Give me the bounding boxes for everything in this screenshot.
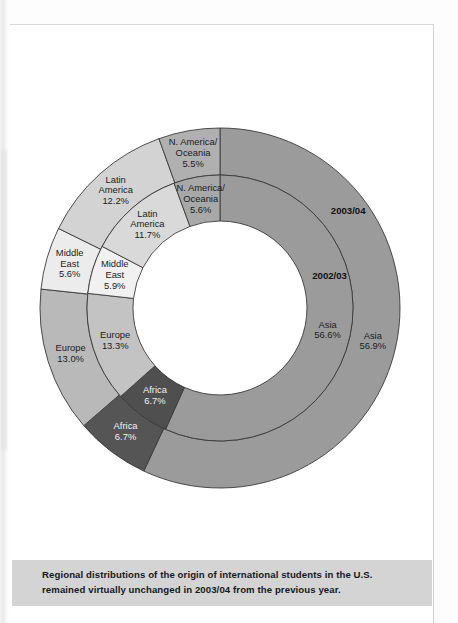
ring-inner-2002-03: [87, 175, 353, 441]
inner-year-label: 2002/03: [312, 270, 347, 281]
scanned-page: Asia56.9%Africa6.7%Europe13.0%MiddleEast…: [0, 0, 458, 623]
caption-line-2: virtually unchanged in 2003/04 from the …: [88, 584, 341, 595]
segment-label: Europe13.3%: [100, 329, 130, 351]
segment-label: Europe13.0%: [56, 343, 86, 365]
scan-gutter-band: [1, 150, 7, 450]
caption-band: Regional distributions of the origin of …: [12, 560, 432, 606]
segment-label: Africa6.7%: [114, 421, 139, 443]
outer-year-label: 2003/04: [331, 205, 366, 216]
segment-label: Africa6.7%: [143, 385, 168, 407]
nested-donut-svg: Asia56.9%Africa6.7%Europe13.0%MiddleEast…: [10, 28, 434, 538]
donut-chart: Asia56.9%Africa6.7%Europe13.0%MiddleEast…: [10, 28, 434, 538]
caption-text: Regional distributions of the origin of …: [42, 568, 414, 597]
